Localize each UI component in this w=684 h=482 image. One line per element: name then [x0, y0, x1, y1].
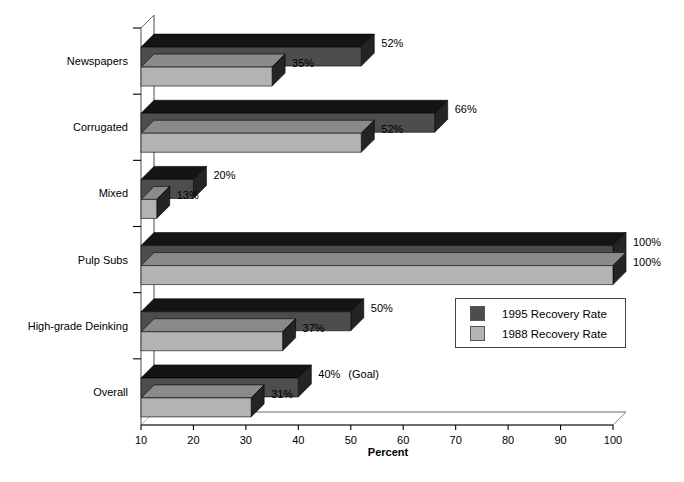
x-axis-title: Percent [328, 446, 448, 458]
value-label-1995: 50% [371, 302, 393, 314]
goal-annotation: (Goal) [348, 368, 379, 380]
legend-swatch-1995 [470, 306, 485, 321]
category-label: Mixed [0, 187, 128, 199]
category-label: Overall [0, 386, 128, 398]
value-label-1995: 100% [633, 236, 661, 248]
bar-1988-5 [141, 385, 264, 417]
value-label-1988: 100% [633, 256, 661, 268]
x-tick-label: 20 [173, 434, 213, 446]
x-tick-label: 10 [121, 434, 161, 446]
x-tick-label: 40 [278, 434, 318, 446]
legend-label-1995: 1995 Recovery Rate [502, 308, 607, 320]
x-tick-label: 100 [593, 434, 633, 446]
value-label-1988: 31% [271, 388, 293, 400]
x-tick-label: 60 [383, 434, 423, 446]
bar-1988-4 [141, 319, 296, 351]
x-tick-label: 30 [226, 434, 266, 446]
x-tick-label: 70 [436, 434, 476, 446]
chart-legend: 1995 Recovery Rate 1988 Recovery Rate [455, 298, 626, 348]
value-label-1988: 37% [303, 322, 325, 334]
category-label: High-grade Deinking [0, 320, 128, 332]
value-label-1995: 66% [455, 103, 477, 115]
legend-swatch-1988 [470, 326, 485, 341]
category-label: Corrugated [0, 121, 128, 133]
bar-1988-3 [141, 253, 626, 285]
x-tick-label: 80 [488, 434, 528, 446]
legend-label-1988: 1988 Recovery Rate [502, 328, 607, 340]
value-label-1995: 40% [318, 368, 340, 380]
value-label-1995: 20% [213, 169, 235, 181]
x-tick-label: 50 [331, 434, 371, 446]
category-label: Newspapers [0, 55, 128, 67]
legend-row-1995[interactable]: 1995 Recovery Rate [470, 306, 607, 321]
bar-1988-0 [141, 54, 285, 86]
bar-1988-1 [141, 120, 374, 152]
legend-row-1988[interactable]: 1988 Recovery Rate [470, 326, 607, 341]
chart-root: 102030405060708090100NewspapersCorrugate… [0, 0, 684, 482]
value-label-1995: 52% [381, 37, 403, 49]
category-label: Pulp Subs [0, 254, 128, 266]
value-label-1988: 13% [177, 189, 199, 201]
value-label-1988: 35% [292, 57, 314, 69]
bar-chart-canvas [0, 0, 684, 482]
value-label-1988: 52% [381, 123, 403, 135]
x-tick-label: 90 [541, 434, 581, 446]
